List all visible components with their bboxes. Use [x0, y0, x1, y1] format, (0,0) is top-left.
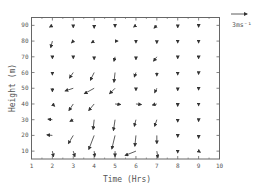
wind-vector — [134, 73, 136, 77]
wind-vector — [134, 120, 136, 126]
y-tick-label: 60 — [21, 69, 29, 76]
wind-vector — [136, 104, 141, 105]
x-tick-label: 6 — [134, 162, 138, 169]
wind-vector — [155, 120, 157, 126]
wind-vector — [68, 135, 73, 143]
x-tick-label: 4 — [92, 162, 96, 169]
x-tick-label: 9 — [197, 162, 201, 169]
wind-vector — [134, 25, 136, 27]
wind-vector — [153, 104, 157, 105]
wind-vector — [92, 41, 95, 43]
wind-vector — [72, 41, 74, 43]
x-tick-label: 7 — [155, 162, 159, 169]
reference-label: 3ms⁻¹ — [232, 21, 252, 29]
wind-vector — [89, 135, 94, 149]
y-tick-label: 70 — [21, 53, 29, 60]
wind-vector — [47, 135, 52, 136]
wind-vector — [85, 88, 95, 93]
y-axis-label: Height (m) — [8, 64, 17, 112]
x-tick-label: 2 — [51, 162, 55, 169]
y-axis: 102030405060708090 — [21, 21, 219, 154]
x-tick-label: 1 — [30, 162, 34, 169]
wind-vector — [114, 73, 115, 83]
y-tick-label: 10 — [21, 147, 29, 154]
y-tick-label: 20 — [21, 131, 29, 138]
wind-vector — [110, 88, 115, 93]
wind-vector — [89, 104, 94, 110]
wind-vector — [50, 25, 53, 27]
wind-vector — [65, 88, 73, 91]
wind-vector — [51, 41, 53, 47]
vector-field — [47, 25, 200, 157]
wind-vector — [199, 151, 201, 152]
y-tick-label: 80 — [21, 37, 29, 44]
wind-vector — [135, 135, 136, 146]
x-tick-label: 5 — [113, 162, 117, 169]
wind-vector — [69, 104, 73, 110]
wind-vector — [52, 104, 54, 106]
wind-vector — [93, 120, 94, 130]
x-tick-label: 10 — [216, 162, 224, 169]
wind-vector — [155, 88, 157, 92]
y-tick-label: 90 — [21, 21, 29, 28]
wind-vector — [114, 57, 115, 61]
y-tick-label: 50 — [21, 84, 29, 91]
y-tick-label: 40 — [21, 100, 29, 107]
wind-vector — [115, 104, 120, 105]
wind-vector — [70, 73, 74, 78]
x-tick-label: 8 — [176, 162, 180, 169]
quiver-chart: 12345678910 102030405060708090 Time (Hrs… — [0, 0, 255, 192]
wind-vector — [154, 57, 157, 61]
wind-vector — [94, 151, 95, 156]
x-axis: 12345678910 — [30, 18, 224, 170]
wind-vector — [112, 135, 115, 148]
wind-vector — [48, 119, 52, 120]
x-tick-label: 3 — [71, 162, 75, 169]
x-axis-label: Time (Hrs) — [103, 175, 151, 184]
wind-vector — [70, 120, 73, 122]
plot-frame — [32, 18, 220, 160]
wind-vector — [125, 151, 136, 155]
wind-vector — [52, 151, 53, 156]
wind-vector — [90, 73, 94, 80]
wind-vector — [73, 151, 75, 156]
wind-vector — [154, 25, 157, 28]
wind-vector — [113, 120, 115, 131]
y-tick-label: 30 — [21, 116, 29, 123]
